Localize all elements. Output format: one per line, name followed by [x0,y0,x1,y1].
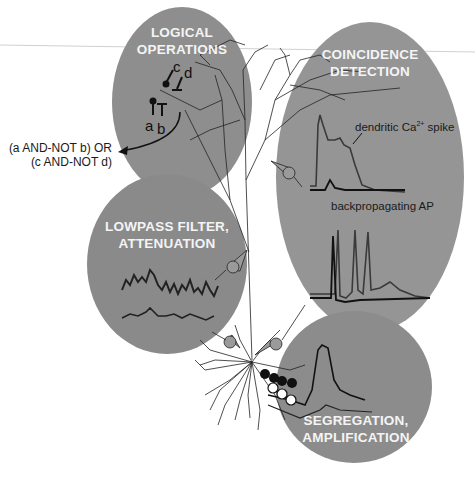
title-line: LOGICAL [132,24,232,41]
logical-operations-title: LOGICAL OPERATIONS [132,24,232,58]
segregation-title: SEGREGATION, AMPLIFICATION [296,412,416,446]
synapse-label-a: a [145,117,153,134]
title-line: SEGREGATION, [296,412,416,429]
label-part: spike [424,121,454,133]
bap-label: backpropagating AP [331,199,434,213]
ca-spike-label: dendritic Ca2+ spike [355,117,454,134]
output-line: (a AND-NOT b) OR [2,141,112,155]
lowpass-filter-title: LOWPASS FILTER, ATTENUATION [102,218,232,252]
coincidence-detection-title: COINCIDENCE DETECTION [320,46,420,80]
title-line: ATTENUATION [102,235,232,252]
output-line: (c AND-NOT d) [2,155,112,169]
title-line: LOWPASS FILTER, [102,218,232,235]
synapse-label-c: c [173,58,181,75]
title-line: COINCIDENCE [320,46,420,63]
label-part: dendritic Ca [355,121,416,133]
title-line: OPERATIONS [132,41,232,58]
synapse-label-d: d [184,64,192,81]
title-line: AMPLIFICATION [296,429,416,446]
lowpass-filter-ellipse [87,174,247,354]
title-line: DETECTION [320,63,420,80]
logic-output-label: (a AND-NOT b) OR (c AND-NOT d) [2,141,112,169]
synapse-label-b: b [157,120,165,137]
